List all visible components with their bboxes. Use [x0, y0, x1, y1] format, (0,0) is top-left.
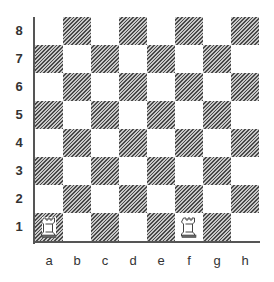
square-h1[interactable]: [231, 213, 259, 241]
square-b5[interactable]: [63, 101, 91, 129]
square-e8[interactable]: [147, 17, 175, 45]
square-h8[interactable]: [231, 17, 259, 45]
square-e1[interactable]: [147, 213, 175, 241]
file-label: e: [147, 253, 175, 268]
square-h2[interactable]: [231, 185, 259, 213]
square-h7[interactable]: [231, 45, 259, 73]
file-label: a: [35, 253, 63, 268]
square-g5[interactable]: [203, 101, 231, 129]
square-f5[interactable]: [175, 101, 203, 129]
square-a6[interactable]: [35, 73, 63, 101]
square-d2[interactable]: [119, 185, 147, 213]
file-label: h: [231, 253, 259, 268]
square-f8[interactable]: [175, 17, 203, 45]
square-f6[interactable]: [175, 73, 203, 101]
square-b6[interactable]: [63, 73, 91, 101]
square-b3[interactable]: [63, 157, 91, 185]
white-rook-icon[interactable]: [175, 213, 203, 241]
square-d6[interactable]: [119, 73, 147, 101]
rank-label: 6: [12, 73, 26, 101]
square-b1[interactable]: [63, 213, 91, 241]
square-c4[interactable]: [91, 129, 119, 157]
square-g3[interactable]: [203, 157, 231, 185]
square-d4[interactable]: [119, 129, 147, 157]
chess-board: [35, 17, 259, 241]
square-g8[interactable]: [203, 17, 231, 45]
square-a5[interactable]: [35, 101, 63, 129]
square-g6[interactable]: [203, 73, 231, 101]
square-a7[interactable]: [35, 45, 63, 73]
square-h5[interactable]: [231, 101, 259, 129]
square-d5[interactable]: [119, 101, 147, 129]
square-g4[interactable]: [203, 129, 231, 157]
file-label: b: [63, 253, 91, 268]
board-left-border: [33, 17, 35, 244]
square-a3[interactable]: [35, 157, 63, 185]
file-label: g: [203, 253, 231, 268]
square-c5[interactable]: [91, 101, 119, 129]
square-e7[interactable]: [147, 45, 175, 73]
rank-label: 8: [12, 17, 26, 45]
square-b7[interactable]: [63, 45, 91, 73]
square-d1[interactable]: [119, 213, 147, 241]
square-e4[interactable]: [147, 129, 175, 157]
square-c8[interactable]: [91, 17, 119, 45]
square-f3[interactable]: [175, 157, 203, 185]
square-c7[interactable]: [91, 45, 119, 73]
square-e6[interactable]: [147, 73, 175, 101]
square-c3[interactable]: [91, 157, 119, 185]
file-label: f: [175, 253, 203, 268]
rank-label: 3: [12, 157, 26, 185]
board-bottom-border: [33, 241, 260, 243]
square-c1[interactable]: [91, 213, 119, 241]
square-c2[interactable]: [91, 185, 119, 213]
square-b4[interactable]: [63, 129, 91, 157]
square-a4[interactable]: [35, 129, 63, 157]
square-h3[interactable]: [231, 157, 259, 185]
square-b8[interactable]: [63, 17, 91, 45]
square-a8[interactable]: [35, 17, 63, 45]
square-e5[interactable]: [147, 101, 175, 129]
rank-label: 2: [12, 185, 26, 213]
square-g1[interactable]: [203, 213, 231, 241]
rank-label: 4: [12, 129, 26, 157]
square-b2[interactable]: [63, 185, 91, 213]
file-label: d: [119, 253, 147, 268]
rank-label: 1: [12, 213, 26, 241]
square-c6[interactable]: [91, 73, 119, 101]
white-rook-icon[interactable]: [35, 213, 63, 241]
square-f4[interactable]: [175, 129, 203, 157]
square-g7[interactable]: [203, 45, 231, 73]
square-f2[interactable]: [175, 185, 203, 213]
square-a2[interactable]: [35, 185, 63, 213]
rank-label: 7: [12, 45, 26, 73]
square-d8[interactable]: [119, 17, 147, 45]
square-h6[interactable]: [231, 73, 259, 101]
rank-label: 5: [12, 101, 26, 129]
square-e3[interactable]: [147, 157, 175, 185]
file-label: c: [91, 253, 119, 268]
square-h4[interactable]: [231, 129, 259, 157]
square-f7[interactable]: [175, 45, 203, 73]
square-g2[interactable]: [203, 185, 231, 213]
square-d3[interactable]: [119, 157, 147, 185]
square-d7[interactable]: [119, 45, 147, 73]
square-e2[interactable]: [147, 185, 175, 213]
